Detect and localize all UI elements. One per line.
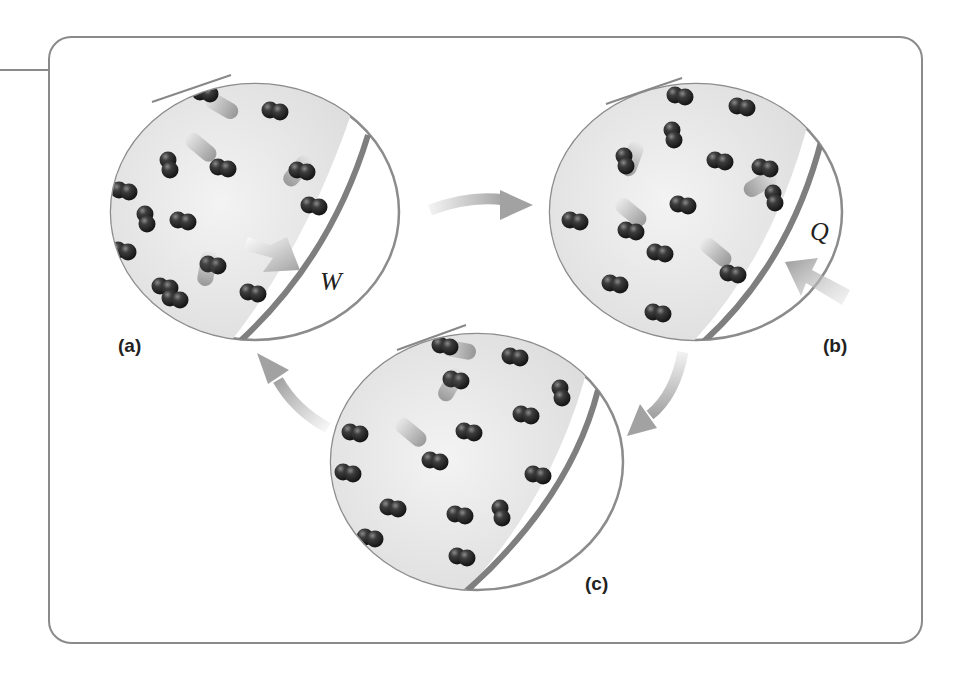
panel-label-b: (b) <box>823 335 847 356</box>
panel-label-c: (c) <box>585 573 608 594</box>
work-symbol: W <box>320 267 344 296</box>
panel-label-a: (a) <box>118 335 141 356</box>
diagram-canvas: W (a) <box>0 0 974 675</box>
heat-symbol: Q <box>810 217 829 246</box>
